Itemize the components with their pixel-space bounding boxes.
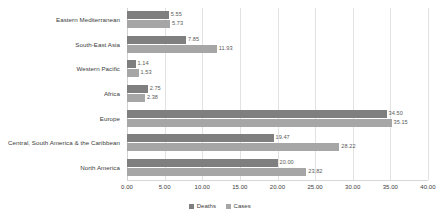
bar-value-label: 2.38 <box>147 94 158 101</box>
category-label: North America <box>0 164 120 172</box>
bar-deaths <box>127 159 278 167</box>
bar-deaths <box>127 36 186 44</box>
bar-cases <box>127 143 339 151</box>
bar-value-label: 23.82 <box>308 168 322 175</box>
bar-cases <box>127 45 217 53</box>
bar-deaths <box>127 110 387 118</box>
bar-value-label: 1.14 <box>138 60 149 67</box>
bar-group: 34.5035.15 <box>127 110 428 128</box>
bar-deaths <box>127 60 136 68</box>
bar-deaths <box>127 11 169 19</box>
legend-swatch-icon <box>226 204 231 209</box>
legend-item-cases[interactable]: Cases <box>226 202 251 210</box>
category-label: South-East Asia <box>0 41 120 49</box>
bar-group: 2.752.38 <box>127 85 428 103</box>
bar-value-label: 5.73 <box>172 20 183 27</box>
bar-cases <box>127 20 170 28</box>
bar-group: 5.555.73 <box>127 11 428 29</box>
plot-area: 5.555.737.8511.931.141.532.752.3834.5035… <box>127 8 428 180</box>
bar-deaths <box>127 134 274 142</box>
bar-value-label: 35.15 <box>394 119 408 126</box>
bar-cases <box>127 94 145 102</box>
bar-value-label: 11.93 <box>219 45 233 52</box>
bar-value-label: 34.50 <box>389 110 403 117</box>
legend-swatch-icon <box>189 204 194 209</box>
category-label: Africa <box>0 90 120 98</box>
x-tick-label: 30.00 <box>333 183 373 192</box>
x-tick-label: 20.00 <box>258 183 298 192</box>
category-label: Eastern Mediterranean <box>0 16 120 24</box>
bar-value-label: 2.75 <box>150 85 161 92</box>
bar-deaths <box>127 85 148 93</box>
bar-group: 7.8511.93 <box>127 36 428 54</box>
chart-legend: DeathsCases <box>0 199 440 213</box>
gridline <box>428 8 429 180</box>
bar-chart: Eastern MediterraneanSouth-East AsiaWest… <box>0 0 440 219</box>
bar-value-label: 5.55 <box>171 11 182 18</box>
category-axis: Eastern MediterraneanSouth-East AsiaWest… <box>0 8 124 180</box>
legend-label: Cases <box>234 202 251 210</box>
x-tick-label: 5.00 <box>145 183 185 192</box>
bar-group: 19.4728.22 <box>127 134 428 152</box>
category-label: Western Pacific <box>0 65 120 73</box>
legend-item-deaths[interactable]: Deaths <box>189 202 216 210</box>
bar-value-label: 1.53 <box>141 69 152 76</box>
bar-cases <box>127 168 306 176</box>
bar-cases <box>127 69 139 77</box>
x-axis-tick-labels: 0.005.0010.0015.0020.0025.0030.0035.0040… <box>127 183 428 195</box>
category-label: Europe <box>0 115 120 123</box>
x-tick-label: 40.00 <box>408 183 440 192</box>
bar-group: 1.141.53 <box>127 60 428 78</box>
bar-value-label: 7.85 <box>188 36 199 43</box>
bar-group: 20.0023.82 <box>127 159 428 177</box>
bar-value-label: 28.22 <box>341 143 355 150</box>
bar-cases <box>127 119 392 127</box>
x-axis-line <box>127 180 428 181</box>
x-tick-label: 15.00 <box>220 183 260 192</box>
legend-label: Deaths <box>197 202 216 210</box>
bar-value-label: 19.47 <box>276 134 290 141</box>
category-label: Central, South America & the Caribbean <box>0 139 120 147</box>
x-tick-label: 10.00 <box>182 183 222 192</box>
x-tick-label: 35.00 <box>370 183 410 192</box>
x-tick-label: 0.00 <box>107 183 147 192</box>
bar-value-label: 20.00 <box>280 159 294 166</box>
x-tick-label: 25.00 <box>295 183 335 192</box>
